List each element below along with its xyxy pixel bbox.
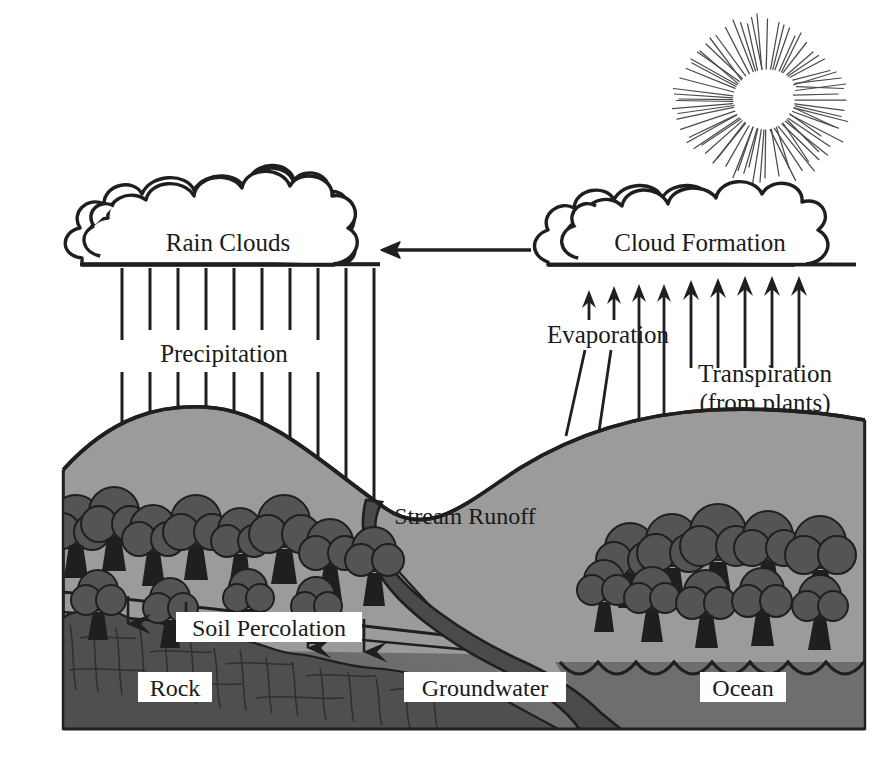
sun-disc	[737, 72, 793, 128]
rock-label-group: Rock	[138, 672, 212, 702]
soil-percolation-label: Soil Percolation	[192, 615, 346, 641]
groundwater-label-group: Groundwater	[404, 672, 566, 702]
stream-runoff-label-group: Stream Runoff	[394, 503, 536, 529]
rock-label: Rock	[150, 675, 201, 701]
cloud-formation-label: Cloud Formation	[614, 229, 786, 256]
transpiration-label: Transpiration	[698, 360, 832, 387]
ocean-label-group: Ocean	[700, 672, 786, 702]
groundwater-label: Groundwater	[422, 675, 549, 701]
water-cycle-diagram: Rain Clouds Cloud Formation	[0, 0, 886, 772]
stream-runoff-label: Stream Runoff	[394, 503, 536, 529]
precipitation-label: Precipitation	[160, 340, 288, 367]
water-cycle-canvas: Rain Clouds Cloud Formation	[0, 0, 886, 772]
ocean-label: Ocean	[712, 675, 773, 701]
evaporation-label: Evaporation	[547, 321, 670, 348]
soil-percolation-label-group: Soil Percolation	[176, 612, 362, 642]
rain-clouds-label: Rain Clouds	[166, 229, 290, 256]
